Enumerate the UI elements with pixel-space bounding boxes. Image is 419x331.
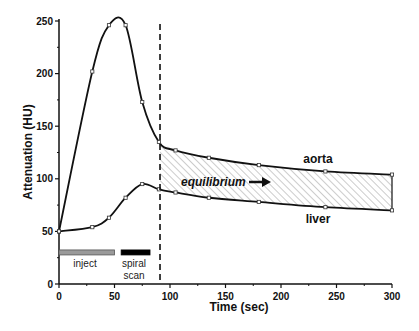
y-tick-label: 50: [42, 226, 54, 237]
liver-marker: [57, 230, 60, 233]
x-axis-title: Time (sec): [209, 300, 268, 314]
aorta-marker: [257, 164, 260, 167]
inject-bar: [59, 250, 115, 255]
liver-marker: [141, 182, 144, 185]
liver-marker: [107, 216, 110, 219]
y-tick-label: 100: [36, 173, 53, 184]
spiral-label: spiral: [122, 258, 146, 269]
aorta-marker: [141, 100, 144, 103]
scan-label: scan: [123, 270, 144, 281]
liver-marker: [124, 196, 127, 199]
liver-marker: [390, 209, 393, 212]
x-tick-label: 300: [384, 291, 401, 302]
equilibrium-label: equilibrium: [181, 175, 246, 189]
x-tick-label: 250: [328, 291, 345, 302]
aorta-marker: [91, 70, 94, 73]
y-axis-title: Attenuation (HU): [21, 104, 35, 199]
inject-label: inject: [73, 258, 97, 269]
aorta-marker: [390, 173, 393, 176]
scan-bar: [121, 250, 150, 255]
liver-marker: [324, 206, 327, 209]
liver-marker: [174, 191, 177, 194]
aorta-marker: [107, 24, 110, 27]
aorta-marker: [174, 149, 177, 152]
x-tick-label: 100: [162, 291, 179, 302]
liver-marker: [207, 196, 210, 199]
y-tick-label: 250: [36, 16, 53, 27]
aorta-label: aorta: [303, 152, 333, 166]
y-tick-label: 0: [47, 279, 53, 290]
aorta-marker: [124, 24, 127, 27]
aorta-marker: [157, 140, 160, 143]
liver-label: liver: [306, 212, 331, 226]
liver-marker: [91, 226, 94, 229]
x-tick-label: 0: [56, 291, 62, 302]
attenuation-chart: 050100150200250050100150200250300 Attenu…: [0, 0, 419, 331]
aorta-marker: [207, 156, 210, 159]
aorta-marker: [324, 170, 327, 173]
x-tick-label: 200: [273, 291, 290, 302]
x-tick-label: 50: [109, 291, 121, 302]
y-tick-label: 200: [36, 68, 53, 79]
liver-marker: [257, 200, 260, 203]
y-tick-label: 150: [36, 121, 53, 132]
